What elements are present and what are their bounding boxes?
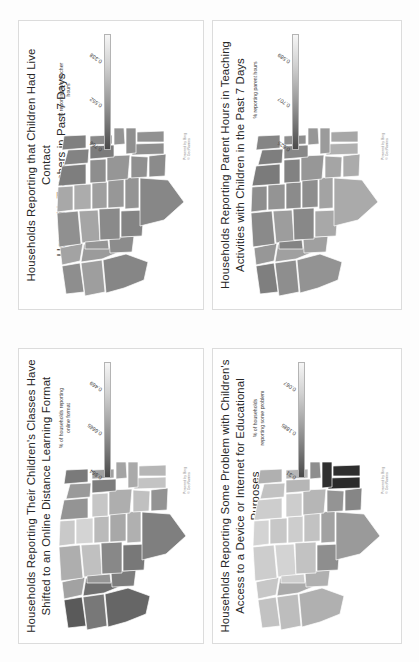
legend: % of households reporting some problem 0… — [252, 358, 305, 478]
legend-title: % of households reporting online format — [58, 358, 71, 478]
legend-tick-min: 0.469 — [89, 380, 104, 393]
legend-tick-labels: 0.31 0.1885 0.067 — [275, 358, 297, 478]
legend-tick-labels: 0.864 0.6665 0.469 — [81, 358, 103, 478]
state-shapes — [253, 462, 380, 630]
legend-tick-mid: 0.552 — [89, 96, 104, 109]
legend-tick-labels: 0.825 0.707 0.589 — [269, 30, 291, 150]
choropleth-map[interactable] — [52, 128, 198, 306]
rotated-content: Households Reporting that Children Had L… — [18, 20, 204, 310]
panel-title: Households Reporting Their Children's Cl… — [24, 356, 54, 636]
legend-tick-mid: 0.6665 — [86, 423, 103, 437]
legend-color-bar — [298, 362, 305, 478]
map-attribution: Powered by Bing © GeoNames — [183, 467, 192, 494]
us-map-svg — [52, 128, 198, 306]
state-shapes — [59, 462, 186, 630]
map-panel-online-format[interactable]: Households Reporting Their Children's Cl… — [18, 348, 204, 644]
legend-tick-min: 0.589 — [276, 52, 291, 65]
legend-color-bar — [104, 362, 111, 478]
map-panel-parent-hours[interactable]: Households Reporting Parent Hours in Tea… — [212, 20, 402, 310]
map-panel-device-internet-problem[interactable]: Households Reporting Some Problem with C… — [212, 348, 402, 644]
legend-title: % reporting parent hours — [252, 30, 259, 150]
choropleth-map[interactable] — [246, 128, 392, 306]
map-attribution: Powered by Bing © GeoNames — [381, 133, 390, 160]
legend-tick-mid: 0.1885 — [280, 423, 297, 437]
legend-color-bar — [292, 34, 299, 150]
map-panel-live-teacher-hours[interactable]: Households Reporting that Children Had L… — [18, 20, 204, 310]
us-map-svg — [246, 128, 392, 306]
legend-tick-min: 0.067 — [283, 380, 298, 393]
state-shapes — [251, 128, 378, 296]
map-attribution: Powered by Bing © GeoNames — [183, 133, 192, 160]
choropleth-map[interactable] — [54, 462, 200, 640]
rotated-content: Households Reporting Parent Hours in Tea… — [212, 20, 402, 310]
legend-title: % of households reporting some problem — [252, 358, 265, 478]
choropleth-map[interactable] — [248, 462, 394, 640]
legend-color-bar — [104, 34, 111, 150]
legend-tick-min: 0.338 — [89, 52, 104, 65]
legend: % of households reporting online format … — [58, 358, 111, 478]
state-shapes — [57, 128, 184, 296]
rotated-content: Households Reporting Some Problem with C… — [212, 348, 402, 644]
rotated-content: Households Reporting Their Children's Cl… — [18, 348, 204, 644]
legend: % reporting live teacher hours 0.766 0.5… — [58, 30, 111, 150]
legend-tick-labels: 0.766 0.552 0.338 — [81, 30, 103, 150]
legend-title: % reporting live teacher hours — [58, 30, 71, 150]
panel-title: Households Reporting Parent Hours in Tea… — [218, 28, 248, 302]
us-map-svg — [54, 462, 200, 640]
legend: % reporting parent hours 0.825 0.707 0.5… — [252, 30, 299, 150]
figure-canvas: Households Reporting that Children Had L… — [0, 0, 419, 662]
map-attribution: Powered by Bing © GeoNames — [381, 467, 390, 494]
legend-tick-mid: 0.707 — [276, 96, 291, 109]
us-map-svg — [248, 462, 394, 640]
